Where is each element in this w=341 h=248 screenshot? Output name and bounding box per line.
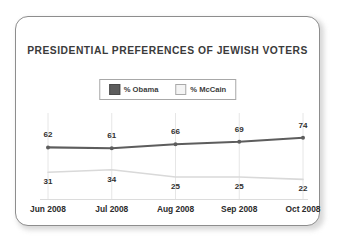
data-point-0-2	[174, 142, 178, 146]
value-label-1-3: 25	[235, 182, 244, 191]
plot-area: 62616669743134252522Jun 2008Jul 2008Aug …	[16, 17, 321, 227]
value-label-0-0: 62	[44, 130, 53, 139]
x-axis-label-4: Oct 2008	[286, 204, 321, 214]
x-axis-label-2: Aug 2008	[157, 204, 194, 214]
value-label-0-1: 61	[107, 131, 116, 140]
x-axis-label-1: Jul 2008	[95, 204, 128, 214]
value-label-1-1: 34	[107, 175, 116, 184]
value-label-0-3: 69	[235, 125, 244, 134]
x-axis-label-0: Jun 2008	[30, 204, 66, 214]
value-label-0-4: 74	[299, 121, 308, 130]
data-point-0-4	[301, 136, 305, 140]
value-label-1-0: 31	[44, 177, 53, 186]
chart-card: PRESIDENTIAL PREFERENCES OF JEWISH VOTER…	[15, 16, 320, 226]
data-point-0-3	[237, 140, 241, 144]
data-point-0-1	[110, 146, 114, 150]
data-point-0-0	[46, 145, 50, 149]
value-label-1-4: 22	[299, 184, 308, 193]
chart-plot-svg	[16, 17, 321, 227]
value-label-0-2: 66	[171, 127, 180, 136]
x-axis-label-3: Sep 2008	[221, 204, 257, 214]
value-label-1-2: 25	[171, 182, 180, 191]
